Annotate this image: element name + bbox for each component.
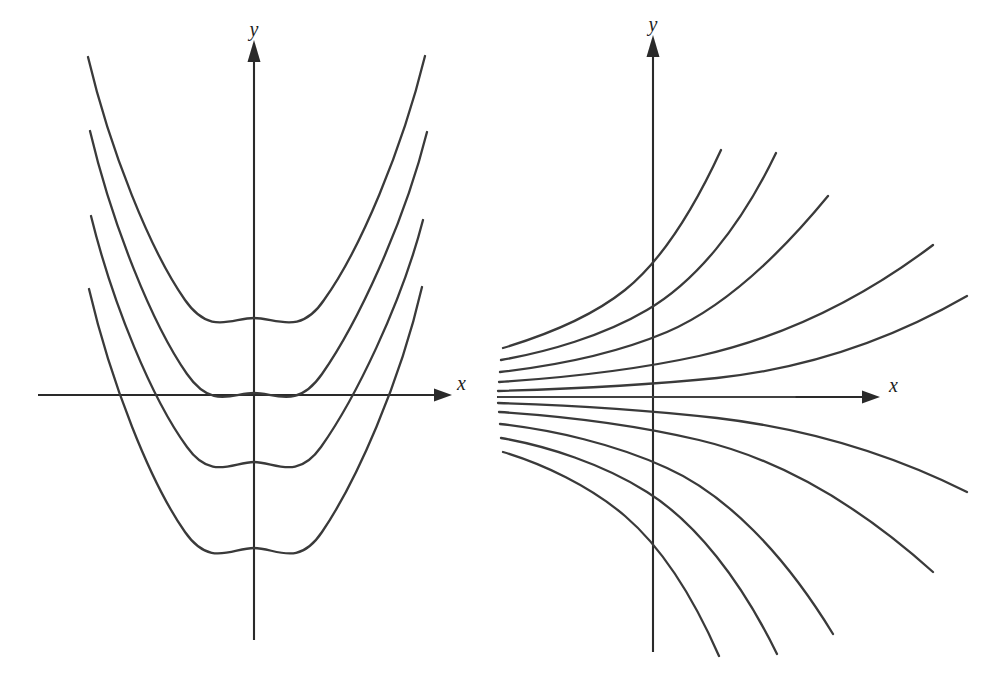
left-y-axis: [248, 40, 261, 640]
left-x-axis-label: x: [456, 372, 466, 394]
right-curve-down-5: [503, 452, 719, 656]
left-curve-2: [90, 131, 427, 397]
right-y-axis: [647, 35, 660, 652]
right-curve-up-5: [503, 150, 721, 348]
right-curve-up-3: [500, 196, 828, 372]
right-curve-down-3: [500, 424, 833, 634]
right-panel: x y: [495, 0, 990, 676]
right-y-axis-label: y: [647, 13, 658, 36]
right-curve-up-4: [501, 153, 776, 360]
right-panel-svg: x y: [495, 0, 990, 676]
left-y-axis-label: y: [248, 18, 259, 41]
left-curve-3: [91, 216, 423, 467]
left-curve-4: [89, 287, 422, 554]
figure-container: x y: [0, 0, 990, 676]
right-curve-down-2: [499, 412, 933, 572]
left-panel: x y: [0, 0, 495, 676]
left-panel-svg: x y: [0, 0, 495, 676]
right-x-axis-label: x: [888, 374, 898, 396]
right-curve-down-4: [501, 438, 777, 654]
